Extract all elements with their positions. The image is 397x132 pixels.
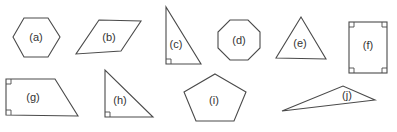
shape-d-octagon: (d) <box>218 20 260 60</box>
shape-c-right-triangle: (c) <box>166 7 201 64</box>
shape-b-parallelogram: (b) <box>76 20 141 54</box>
right-angle-mark <box>6 79 11 84</box>
shape-g-trapezoid: (g) <box>6 79 78 116</box>
shape-f-label: (f) <box>363 39 373 51</box>
shape-e-label: (e) <box>293 37 306 49</box>
shape-h-label: (h) <box>113 94 126 106</box>
shape-b-label: (b) <box>102 31 115 43</box>
shape-j-triangle: (j) <box>282 86 375 111</box>
shape-i-pentagon: (i) <box>184 74 246 121</box>
shape-d-label: (d) <box>232 34 245 46</box>
shape-i-label: (i) <box>209 94 219 106</box>
shape-e-triangle: (e) <box>276 17 326 59</box>
shape-c-label: (c) <box>170 38 183 50</box>
right-angle-mark <box>382 22 387 27</box>
shape-j-label: (j) <box>342 89 352 101</box>
shape-a-label: (a) <box>29 31 42 43</box>
shape-f-rectangle: (f) <box>349 22 387 73</box>
right-angle-mark <box>6 110 11 115</box>
right-angle-mark <box>349 22 354 27</box>
right-angle-mark <box>382 68 387 73</box>
shape-h-right-triangle: (h) <box>105 70 153 117</box>
shapes-diagram: (a) (b) (c) (d) (e) (f) (g) <box>0 0 397 132</box>
right-angle-mark <box>105 112 110 117</box>
right-angle-mark <box>349 68 354 73</box>
shape-a-hexagon: (a) <box>13 18 60 57</box>
right-angle-mark <box>166 59 171 64</box>
shape-g-label: (g) <box>26 91 39 103</box>
